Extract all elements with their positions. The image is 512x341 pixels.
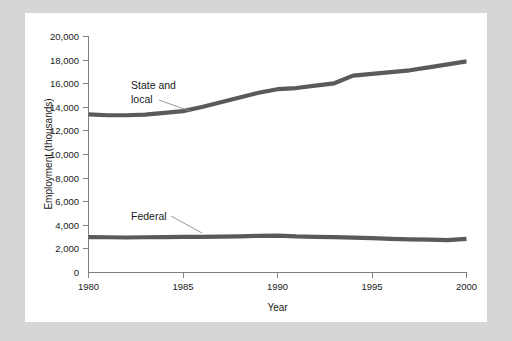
y-axis-title: Employment (thousands) (43, 98, 54, 209)
series-line-federal (89, 236, 467, 240)
figure-root: 20,000 18,000 16,000 14,000 12,000 10,00… (0, 0, 512, 341)
x-tick-label: 1985 (172, 281, 193, 292)
y-axis-ticks (83, 37, 89, 249)
y-tick-label: 2,000 (55, 243, 79, 254)
federal-leader-line (171, 216, 202, 233)
y-tick-label: 0 (74, 267, 79, 278)
y-tick-label: 6,000 (55, 196, 79, 207)
y-tick-label: 8,000 (55, 173, 79, 184)
x-tick-label: 1995 (361, 281, 382, 292)
y-tick-labels: 20,000 18,000 16,000 14,000 12,000 10,00… (50, 31, 79, 278)
x-tick-labels: 1980 1985 1990 1995 2000 (78, 281, 477, 292)
x-tick-label: 1980 (78, 281, 99, 292)
state-and-local-annotation: State and local (131, 79, 191, 112)
x-axis-title: Year (267, 302, 288, 313)
federal-label: Federal (131, 210, 167, 222)
employment-line-chart: 20,000 18,000 16,000 14,000 12,000 10,00… (0, 0, 512, 341)
y-tick-label: 18,000 (50, 55, 79, 66)
y-tick-label: 16,000 (50, 78, 79, 89)
x-tick-label: 2000 (456, 281, 477, 292)
state-and-local-label-line1: State and (131, 79, 176, 91)
y-tick-label: 4,000 (55, 220, 79, 231)
y-tick-label: 12,000 (50, 125, 79, 136)
x-axis-ticks (89, 273, 467, 279)
federal-annotation: Federal (131, 210, 202, 233)
x-tick-label: 1990 (267, 281, 288, 292)
y-tick-label: 10,000 (50, 149, 79, 160)
y-tick-label: 14,000 (50, 102, 79, 113)
state-and-local-label-line2: local (131, 93, 153, 105)
y-tick-label: 20,000 (50, 31, 79, 42)
